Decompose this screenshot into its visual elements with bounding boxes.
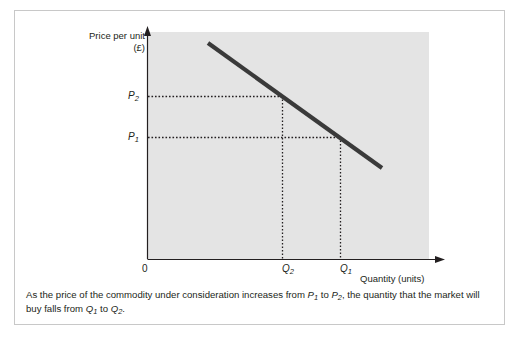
axis-tick-q2: Q2 [282,263,294,276]
axis-tick-q1: Q1 [340,263,352,276]
y-axis-arrowhead [144,26,151,36]
caption-var-q1: Q1 [86,303,98,314]
x-axis-arrowhead [435,256,445,263]
caption-segment-5: . [122,303,125,314]
axis-tick-q1-subscript: 1 [348,267,352,276]
demand-curve-chart [15,11,506,326]
caption-var-q2: Q2 [111,303,123,314]
axis-tick-p2-letter: P [128,90,135,101]
axis-tick-q1-letter: Q [340,263,348,274]
caption-var-q1-subscript: 1 [93,307,97,316]
axis-tick-p1-subscript: 1 [135,135,139,144]
y-axis-title: Price per unit (£) [77,30,145,54]
axis-tick-origin: 0 [142,263,148,275]
caption-segment-4: to [97,303,110,314]
caption-var-p1: P1 [308,289,319,300]
caption-var-p2-subscript: 2 [338,293,342,302]
figure-frame: Price per unit (£) Quantity (units) 0 P2… [14,10,505,325]
caption-var-q2-letter: Q [111,303,118,314]
axis-tick-q2-subscript: 2 [290,267,294,276]
figure-caption: As the price of the commodity under cons… [26,288,492,317]
chart-plot-area: Price per unit (£) Quantity (units) 0 P2… [15,11,506,326]
axis-tick-p1-letter: P [128,131,135,142]
axis-tick-p1: P1 [128,131,139,144]
x-axis-title: Quantity (units) [360,273,424,285]
caption-var-p1-letter: P [308,289,314,300]
caption-var-p1-subscript: 1 [314,293,318,302]
axis-tick-q2-letter: Q [282,263,290,274]
caption-var-q2-subscript: 2 [118,307,122,316]
caption-var-p2: P2 [331,289,342,300]
caption-segment-2: to [318,289,331,300]
caption-segment-1: As the price of the commodity under cons… [26,289,308,300]
axis-tick-p2: P2 [128,90,139,103]
caption-var-p2-letter: P [331,289,337,300]
plot-background [148,32,429,259]
axis-tick-p2-subscript: 2 [135,94,139,103]
